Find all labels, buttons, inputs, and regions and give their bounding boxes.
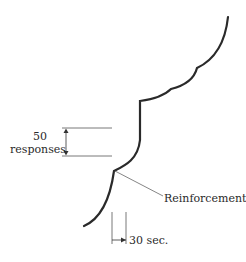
arrowhead-right-icon	[121, 238, 126, 243]
reinforcement-label: Reinforcement	[164, 192, 246, 205]
cumulative-record-diagram: 50 responses Reinforcement 30 sec.	[0, 0, 246, 262]
scale-unit-label: responses	[10, 143, 66, 156]
scale-value-label: 50	[33, 130, 47, 143]
time-scale-label: 30 sec.	[129, 234, 168, 247]
arrowhead-up-icon	[64, 129, 69, 134]
reinforcement-pointer	[115, 171, 163, 196]
